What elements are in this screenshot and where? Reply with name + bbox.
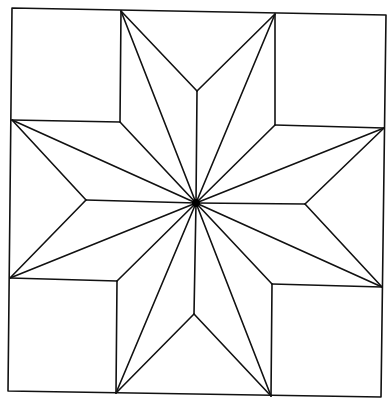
notch-edge-top <box>197 14 275 91</box>
notch-edge-bottom <box>116 314 194 393</box>
top-right-square-edge <box>275 125 384 128</box>
notch-ray-left <box>86 200 196 203</box>
bottom-left-square-edge <box>10 278 117 281</box>
bottom-right-square-edge <box>271 284 272 396</box>
bottom-right-square-edge <box>272 284 382 287</box>
star-ray-5 <box>116 203 196 393</box>
diagonal-ray-bottom-left <box>117 203 196 281</box>
notch-ray-top <box>196 91 197 203</box>
star-ray-2 <box>196 128 384 203</box>
star-quilt-diagram <box>0 0 392 402</box>
top-left-square-edge <box>120 11 121 122</box>
top-left-square-edge <box>12 120 120 122</box>
notch-edge-left <box>10 200 86 278</box>
notch-ray-bottom <box>194 203 196 314</box>
notch-edge-top <box>121 11 197 91</box>
star-ray-6 <box>10 203 196 278</box>
diagonal-ray-bottom-right <box>196 203 272 284</box>
star-ray-1 <box>196 14 275 203</box>
diagram-lines <box>8 8 386 397</box>
bottom-left-square-edge <box>116 281 117 393</box>
notch-edge-bottom <box>194 314 271 396</box>
notch-edge-left <box>12 120 86 200</box>
notch-edge-right <box>305 204 382 287</box>
diagonal-ray-top-left <box>120 122 196 203</box>
notch-ray-right <box>196 203 305 204</box>
diagonal-ray-top-right <box>196 125 275 203</box>
notch-edge-right <box>305 128 384 204</box>
center-hub <box>192 199 200 207</box>
